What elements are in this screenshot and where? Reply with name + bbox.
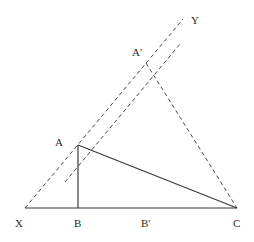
label-B: B bbox=[74, 217, 81, 229]
dashed-line-XY bbox=[25, 19, 183, 208]
dashed-line-through-A-Aprime bbox=[65, 44, 180, 182]
dashed-line-Aprime-C bbox=[146, 63, 237, 208]
segment-AC bbox=[78, 145, 237, 208]
label-Y: Y bbox=[191, 14, 199, 26]
label-C: C bbox=[233, 217, 240, 229]
geometry-diagram: Y A' A X B B' C bbox=[0, 0, 254, 242]
label-B-prime: B' bbox=[141, 217, 150, 229]
label-A: A bbox=[55, 136, 63, 148]
label-X: X bbox=[15, 217, 23, 229]
label-A-prime: A' bbox=[132, 46, 142, 58]
